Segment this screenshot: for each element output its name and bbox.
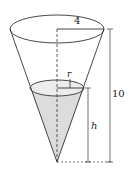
top-radius-label: 4: [74, 15, 80, 26]
total-height-label: 10: [112, 88, 125, 99]
water-radius-label: r: [67, 69, 72, 79]
water-height-label: h: [91, 120, 97, 131]
cone-diagram: 4 r h 10: [0, 0, 129, 171]
